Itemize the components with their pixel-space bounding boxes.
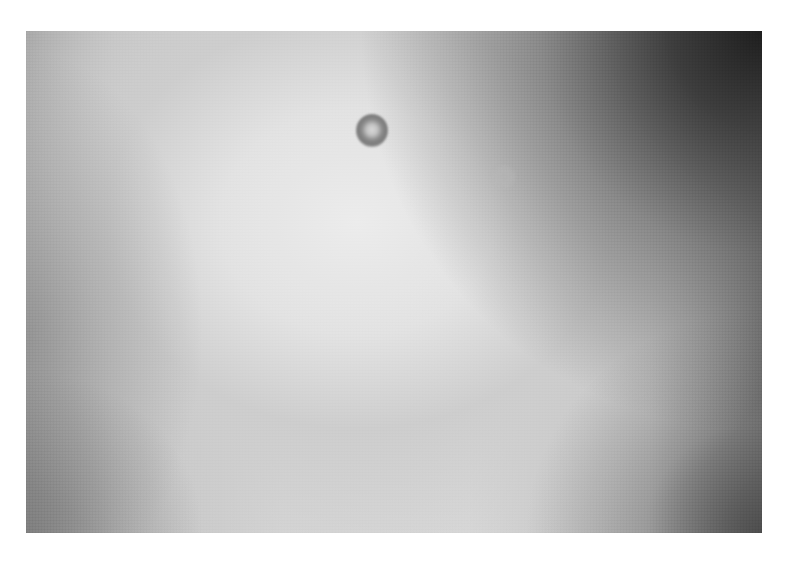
micrograph-image <box>26 31 762 533</box>
ring-particle <box>356 114 388 147</box>
faint-particle <box>492 165 516 189</box>
grain-noise <box>26 31 762 533</box>
